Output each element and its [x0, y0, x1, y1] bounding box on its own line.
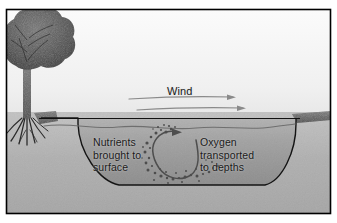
nutrients-label: Nutrients brought to surface: [93, 136, 141, 174]
pond-circulation-diagram: [0, 0, 337, 223]
diagram-figure: Wind Nutrients brought to surface Oxygen…: [0, 0, 337, 223]
scene-content: [4, 7, 331, 214]
wind-label: Wind: [167, 85, 192, 98]
oxygen-label: Oxygen transported to depths: [200, 136, 254, 174]
